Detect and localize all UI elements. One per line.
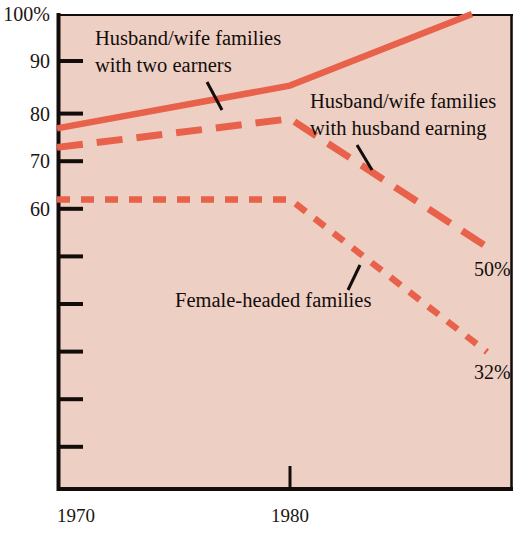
y-tick-label-90: 90 <box>30 50 50 72</box>
y-tick-label-70: 70 <box>30 150 50 172</box>
chart-container: 100% 90 80 70 60 1970 1980 Husband/wife … <box>0 0 528 538</box>
x-tick-label-1970: 1970 <box>57 505 95 526</box>
y-tick-label-60: 60 <box>30 198 50 220</box>
annotation-two-earners-line2: with two earners <box>95 54 232 76</box>
annotation-husband-earning-line2: with husband earning <box>310 117 487 140</box>
annotation-female-headed-line1: Female-headed families <box>175 289 371 311</box>
y-tick-label-100: 100% <box>3 3 50 25</box>
y-tick-label-80: 80 <box>30 103 50 125</box>
line-chart: 100% 90 80 70 60 1970 1980 Husband/wife … <box>0 0 528 538</box>
x-tick-label-1980: 1980 <box>271 505 309 526</box>
annotation-husband-earning-line1: Husband/wife families <box>310 90 496 112</box>
endpoint-label-female-headed: 32% <box>474 361 511 383</box>
endpoint-label-husband-earning: 50% <box>474 258 511 280</box>
annotation-two-earners-line1: Husband/wife families <box>95 27 281 49</box>
